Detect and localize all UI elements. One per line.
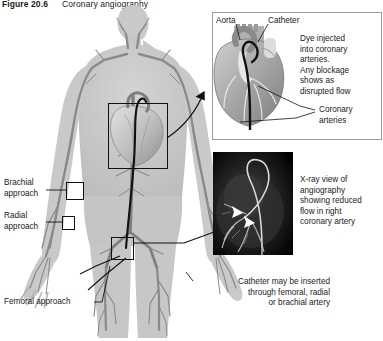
xray-angiogram-image bbox=[213, 152, 293, 255]
marker-box-brachial[interactable] bbox=[66, 182, 84, 200]
marker-box-heart[interactable] bbox=[108, 103, 168, 169]
label-radial-approach: Radial approach bbox=[4, 211, 38, 232]
caption-catheter-insertion: Catheter may be inserted through femoral… bbox=[186, 277, 330, 309]
caption-xray-view: X-ray view of angiography showing reduce… bbox=[300, 175, 362, 228]
figure-coronary-angiography: Figure 20.6 Coronary angiography bbox=[0, 0, 383, 341]
heart-inset-panel bbox=[212, 12, 382, 140]
label-coronary-arteries: Coronary arteries bbox=[319, 105, 353, 126]
label-aorta: Aorta bbox=[216, 16, 236, 27]
text-dye-injection-description: Dye injected into coronary arteries. Any… bbox=[300, 34, 351, 97]
label-femoral-approach: Femoral approach bbox=[4, 297, 70, 308]
marker-box-femoral[interactable] bbox=[111, 237, 134, 260]
label-catheter: Catheter bbox=[268, 16, 299, 27]
label-brachial-approach: Brachial approach bbox=[4, 178, 38, 199]
marker-box-radial[interactable] bbox=[62, 216, 75, 230]
